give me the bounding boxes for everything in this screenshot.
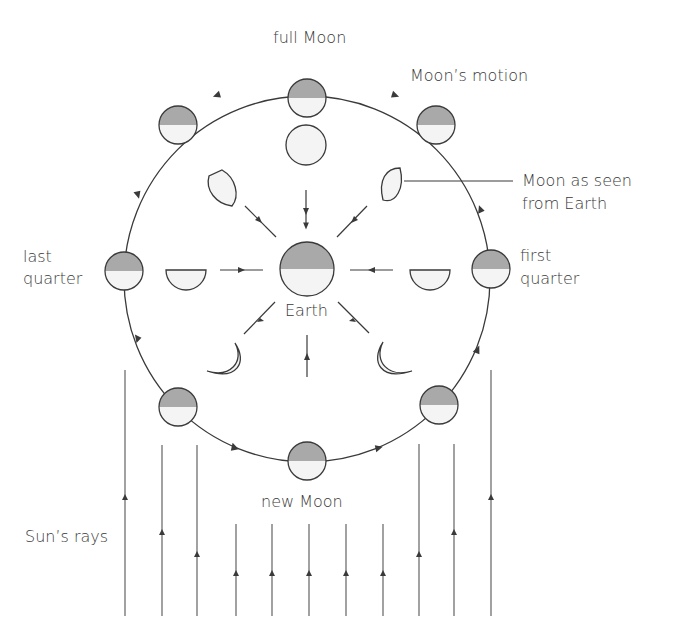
earth: [280, 242, 334, 296]
apparent-full-moon: [286, 125, 326, 165]
apparent-crescent-right: [378, 342, 412, 374]
label-seen-from-earth-1: Moon as seen: [522, 170, 632, 192]
moon-first-quarter-position: [472, 250, 510, 288]
label-new-moon: new Moon: [261, 491, 343, 513]
moon-waning-crescent-position: [159, 388, 197, 426]
apparent-gibbous-right: [382, 168, 402, 201]
moon-waxing-crescent-position: [420, 386, 458, 424]
label-earth: Earth: [285, 300, 328, 322]
label-suns-rays: Sun’s rays: [25, 526, 108, 548]
label-moons-motion: Moon’s motion: [410, 65, 528, 87]
moon-full-position: [288, 79, 326, 117]
label-seen-from-earth-2: from Earth: [522, 193, 607, 215]
label-full-moon: full Moon: [273, 27, 346, 49]
moon-waning-gibbous-position: [159, 106, 197, 144]
moon-waxing-gibbous-position: [417, 106, 455, 144]
label-first-quarter-1: first: [520, 245, 551, 267]
moon-last-quarter-position: [105, 252, 143, 290]
label-last-quarter-2: quarter: [23, 268, 82, 290]
moon-new-position: [288, 442, 326, 480]
label-last-quarter-1: last: [23, 246, 52, 268]
apparent-crescent-left: [207, 343, 240, 374]
label-first-quarter-2: quarter: [520, 268, 579, 290]
apparent-half-left: [166, 270, 206, 290]
apparent-half-right: [410, 270, 450, 290]
apparent-gibbous-left: [208, 170, 236, 206]
